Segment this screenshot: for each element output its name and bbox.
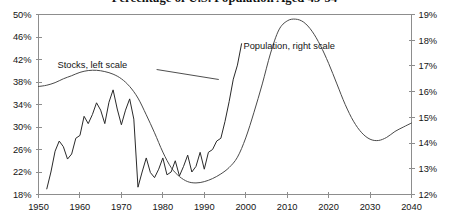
x-tick-label: 2020 <box>318 202 339 212</box>
left-axis-ticks: 18%22%26%30%34%38%42%46%50% <box>13 10 42 200</box>
left-tick-label: 30% <box>13 122 32 132</box>
x-tick-label: 1980 <box>152 202 173 212</box>
x-tick-label: 1950 <box>28 202 49 212</box>
left-tick-label: 46% <box>13 32 32 42</box>
right-tick-label: 13% <box>419 164 438 174</box>
right-axis-ticks: 12%13%14%15%16%17%18%19% <box>409 10 438 200</box>
right-tick-label: 18% <box>419 36 438 46</box>
left-tick-label: 26% <box>13 145 32 155</box>
x-tick-label: 2010 <box>277 202 298 212</box>
annotation-label: Stocks, left scale <box>57 60 127 70</box>
series-population <box>39 19 412 183</box>
annotation-label: Population, right scale <box>243 41 334 51</box>
left-tick-label: 18% <box>13 190 32 200</box>
x-tick-label: 2040 <box>401 202 422 212</box>
x-tick-label: 2030 <box>360 202 381 212</box>
left-tick-label: 38% <box>13 77 32 87</box>
left-tick-label: 34% <box>13 100 32 110</box>
left-tick-label: 50% <box>13 10 32 20</box>
series-group <box>39 19 412 189</box>
right-tick-label: 17% <box>419 61 438 71</box>
right-tick-label: 12% <box>419 190 438 200</box>
x-tick-label: 2000 <box>235 202 256 212</box>
right-tick-label: 15% <box>419 113 438 123</box>
x-tick-label: 1990 <box>194 202 215 212</box>
right-tick-label: 14% <box>419 138 438 148</box>
chart-plot-svg: 18%22%26%30%34%38%42%46%50% 12%13%14%15%… <box>0 0 449 224</box>
left-tick-label: 22% <box>13 167 32 177</box>
chart-container: Percentage of U.S. Population Aged 45-54… <box>0 0 449 224</box>
left-tick-label: 42% <box>13 55 32 65</box>
x-tick-label: 1970 <box>111 202 132 212</box>
right-tick-label: 19% <box>419 10 438 20</box>
x-tick-label: 1960 <box>70 202 91 212</box>
annotation-group: Stocks, left scalePopulation, right scal… <box>57 41 334 80</box>
right-tick-label: 16% <box>419 87 438 97</box>
plot-frame <box>39 15 412 195</box>
annotation-leader-line <box>157 70 219 80</box>
